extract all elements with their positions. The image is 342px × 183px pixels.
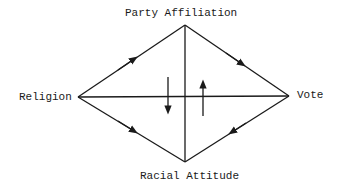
edge-religion-vote [78, 96, 289, 97]
node-label-vote: Vote [297, 90, 323, 101]
arrow-vote-racial [232, 123, 246, 132]
node-label-racial-attitude: Racial Attitude [140, 171, 239, 182]
node-label-religion: Religion [19, 92, 72, 103]
causal-diagram: Party Affiliation Religion Vote Racial A… [0, 0, 342, 183]
node-label-party-affiliation: Party Affiliation [125, 8, 237, 19]
arrow-religion-racial [118, 121, 134, 131]
arrow-party-vote [226, 53, 242, 64]
arrow-religion-party [118, 59, 134, 70]
